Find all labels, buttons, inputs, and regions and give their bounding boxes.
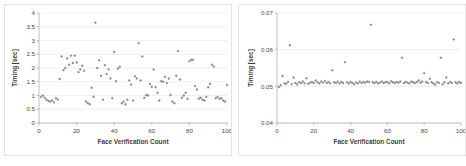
data-point (226, 84, 228, 86)
x-axis-ticks: 020406080100 (275, 123, 465, 134)
data-point (130, 84, 132, 86)
data-point (381, 81, 383, 83)
data-point (66, 57, 68, 59)
data-point (364, 82, 366, 84)
x-tick-label: 60 (148, 127, 155, 134)
data-point (185, 92, 187, 94)
data-point (388, 82, 390, 84)
data-point (420, 82, 422, 84)
data-point (79, 68, 81, 70)
data-points (40, 22, 228, 106)
data-point (451, 82, 453, 84)
data-point (100, 75, 102, 77)
data-point (443, 81, 445, 83)
data-point (172, 101, 174, 103)
data-point (307, 83, 309, 85)
data-point (427, 82, 429, 84)
y-tick-label: 0.5 (26, 105, 35, 112)
data-point (383, 82, 385, 84)
data-point (140, 79, 142, 81)
data-point (370, 24, 372, 26)
data-point (125, 103, 127, 105)
data-point (47, 100, 49, 102)
data-point (74, 55, 76, 57)
data-point (355, 81, 357, 83)
data-point (147, 95, 149, 97)
data-point (409, 82, 411, 84)
data-point (145, 94, 147, 96)
y-tick-label: 0.06 (261, 46, 274, 53)
y-tick-label: 0.05 (261, 83, 274, 90)
data-point (311, 81, 313, 83)
data-point (379, 82, 381, 84)
data-point (104, 64, 106, 66)
y-axis-ticks: 0.040.050.060.07 (261, 9, 277, 126)
data-point (115, 80, 117, 82)
data-point (351, 82, 353, 84)
data-point (386, 81, 388, 83)
data-point (44, 97, 46, 99)
data-point (412, 81, 414, 83)
data-point (410, 81, 412, 83)
data-point (434, 84, 436, 86)
data-point (431, 81, 433, 83)
scatter-plot-right: 0.040.050.060.07020406080100Face Verific… (239, 5, 465, 155)
data-point (346, 81, 348, 83)
data-point (156, 92, 158, 94)
data-point (207, 86, 209, 88)
data-point (162, 81, 164, 83)
data-point (68, 64, 70, 66)
data-point (425, 81, 427, 83)
data-point (331, 69, 333, 71)
data-point (61, 56, 63, 58)
data-point (72, 62, 74, 64)
data-point (155, 86, 157, 88)
data-point (458, 81, 460, 83)
y-tick-label: 3 (32, 37, 36, 44)
data-point (366, 81, 368, 83)
data-point (449, 81, 451, 83)
data-point (432, 82, 434, 84)
data-point (175, 75, 177, 77)
data-point (49, 101, 51, 103)
data-point (78, 71, 80, 73)
data-point (149, 83, 151, 85)
data-point (350, 81, 352, 83)
data-point (222, 100, 224, 102)
data-point (138, 42, 140, 44)
data-point (326, 82, 328, 84)
data-point (62, 69, 64, 71)
data-point (121, 102, 123, 104)
data-point (98, 59, 100, 61)
y-tick-label: 1 (32, 92, 36, 99)
data-point (141, 56, 143, 58)
data-point (194, 85, 196, 87)
data-point (421, 81, 423, 83)
data-point (285, 83, 287, 85)
x-tick-label: 100 (456, 127, 465, 134)
data-point (94, 22, 96, 24)
y-tick-label: 2 (32, 64, 36, 71)
data-point (447, 82, 449, 84)
y-tick-label: 1.5 (26, 78, 35, 85)
data-point (298, 81, 300, 83)
gridlines (277, 13, 461, 123)
data-point (219, 98, 221, 100)
data-point (143, 97, 145, 99)
data-point (166, 82, 168, 84)
data-point (329, 82, 331, 84)
data-point (302, 81, 304, 83)
chart-panel-left: 00.511.522.533.54020406080100Face Verifi… (4, 4, 232, 156)
x-tick-label: 60 (384, 127, 391, 134)
x-axis-title: Face Verification Count (333, 138, 405, 145)
data-point (397, 82, 399, 84)
x-tick-label: 40 (111, 127, 118, 134)
data-point (361, 82, 363, 84)
data-point (83, 70, 85, 72)
data-point (442, 83, 444, 85)
x-tick-label: 20 (310, 127, 317, 134)
data-point (108, 68, 110, 70)
data-point (375, 81, 377, 83)
data-point (423, 72, 425, 74)
data-point (342, 82, 344, 84)
